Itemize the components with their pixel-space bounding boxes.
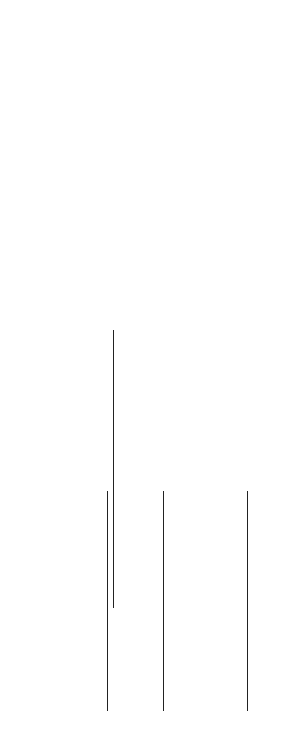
diagram-portrait — [0, 0, 289, 745]
